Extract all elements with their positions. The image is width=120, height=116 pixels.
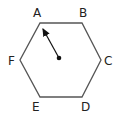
hexagon-diagram: A B C D E F xyxy=(0,0,120,116)
arrow-center-to-a xyxy=(43,29,59,58)
vertex-label-f: F xyxy=(8,54,15,68)
vertex-label-a: A xyxy=(33,6,42,20)
hexagon xyxy=(20,23,101,97)
center-dot xyxy=(57,56,62,61)
vertex-label-c: C xyxy=(104,54,112,68)
vertex-label-b: B xyxy=(79,6,87,20)
vertex-label-e: E xyxy=(32,100,40,114)
vertex-label-d: D xyxy=(81,100,90,114)
